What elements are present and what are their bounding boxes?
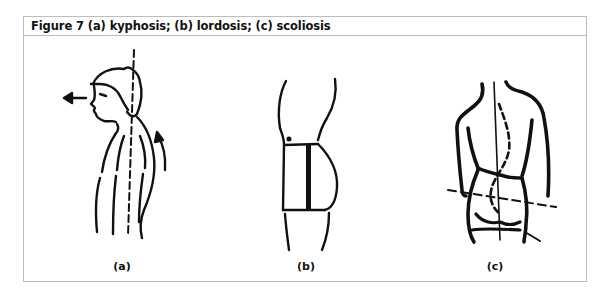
scoliosis-illustration xyxy=(0,0,608,292)
panel-scoliosis: (c) xyxy=(0,0,608,292)
panel-label-c: (c) xyxy=(487,260,504,273)
